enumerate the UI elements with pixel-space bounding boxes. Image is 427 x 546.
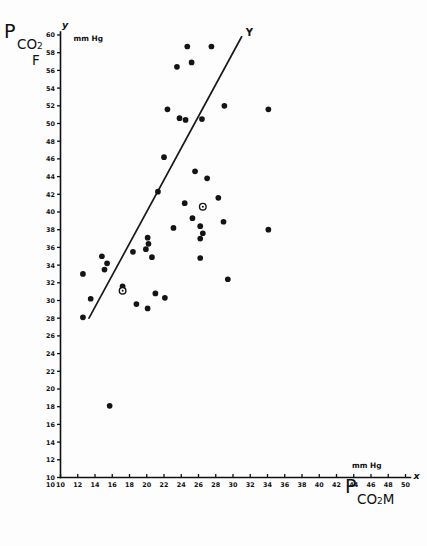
data-point-filled: [266, 106, 272, 112]
x-axis-units: mm Hg: [352, 461, 381, 470]
y-tick-label: 24: [46, 350, 55, 358]
x-tick-label: 26: [194, 481, 203, 489]
data-point-filled: [183, 117, 189, 123]
y-tick-label: 32: [46, 279, 55, 287]
y-title-f: F: [32, 52, 40, 68]
data-point-filled: [162, 295, 168, 301]
origin-tick-label: 10: [46, 481, 55, 489]
data-points: [80, 44, 271, 409]
data-point-filled: [184, 44, 190, 50]
y-tick-label: 40: [46, 208, 55, 216]
data-point-filled: [80, 271, 86, 277]
data-point-filled: [171, 225, 177, 231]
data-point-filled: [145, 235, 151, 241]
data-point-open-center: [202, 206, 204, 208]
x-tick-label: 34: [263, 481, 272, 489]
y-axis-title: P CO2 F: [4, 22, 43, 68]
data-point-filled: [225, 276, 231, 282]
x-tick-label: 16: [108, 481, 117, 489]
data-point-filled: [88, 296, 94, 302]
data-point-filled: [189, 60, 195, 66]
axis-ticks: [57, 35, 406, 478]
y-tick-label: 26: [46, 332, 55, 340]
axis-tick-labels: 1012141618202224262830323436384042444648…: [46, 31, 410, 489]
y-tick-label: 42: [46, 191, 55, 199]
data-point-filled: [102, 267, 108, 273]
data-point-filled: [80, 314, 86, 320]
y-tick-label: 54: [46, 85, 55, 93]
x-tick-label: 12: [73, 481, 82, 489]
data-point-filled: [197, 255, 203, 261]
data-point-filled: [134, 301, 140, 307]
y-tick-label: 34: [46, 262, 55, 270]
data-point-filled: [165, 106, 171, 112]
data-point-filled: [145, 306, 151, 312]
data-point-filled: [155, 189, 161, 195]
data-point-filled: [192, 168, 198, 174]
x-tick-label: 36: [280, 481, 289, 489]
y-tick-label: 12: [46, 456, 55, 464]
y-tick-label: 14: [46, 439, 55, 447]
x-tick-label: 40: [315, 481, 324, 489]
y-tick-label: 20: [46, 385, 55, 393]
x-tick-label: 20: [142, 481, 151, 489]
x-title-co: CO: [357, 491, 377, 507]
data-point-filled: [222, 103, 228, 109]
regression-line: [89, 37, 242, 318]
y-tick-label: 44: [46, 173, 55, 181]
data-point-filled: [190, 215, 196, 221]
data-point-filled: [174, 64, 180, 70]
x-tick-label: 22: [160, 481, 169, 489]
data-point-filled: [143, 246, 149, 252]
y-tick-label: 56: [46, 67, 55, 75]
y-tick-label: 52: [46, 102, 55, 110]
data-point-filled: [107, 403, 113, 409]
x-title-m: M: [383, 491, 395, 507]
y-tick-label: 18: [46, 403, 55, 411]
x-tick-label: 38: [298, 481, 307, 489]
axis-annotations: Yymm Hgxmm Hg: [62, 19, 421, 481]
regression-line-segment: [89, 37, 242, 318]
x-tick-label: 30: [229, 481, 238, 489]
y-tick-label: 48: [46, 138, 55, 146]
x-tick-label: 14: [91, 481, 100, 489]
x-axis-letter: x: [413, 470, 421, 481]
data-point-filled: [153, 291, 159, 297]
plot-canvas: 1012141618202224262830323436384042444648…: [0, 0, 427, 546]
data-point-filled: [200, 230, 206, 236]
data-point-filled: [215, 195, 221, 201]
y-tick-label: 46: [46, 155, 55, 163]
data-point-filled: [182, 200, 188, 206]
x-tick-label: 50: [401, 481, 410, 489]
data-point-filled: [146, 241, 152, 247]
y-tick-label: 38: [46, 226, 55, 234]
data-point-filled: [177, 115, 183, 121]
data-point-filled: [209, 44, 215, 50]
regression-line-label: Y: [245, 27, 254, 38]
y-tick-label: 22: [46, 368, 55, 376]
data-point-filled: [204, 176, 210, 182]
y-title-p: P: [4, 20, 15, 42]
data-point-filled: [99, 253, 105, 259]
x-tick-label: 42: [332, 481, 341, 489]
x-axis-title: P CO2M: [345, 477, 394, 507]
y-tick-label: 28: [46, 315, 55, 323]
data-point-filled: [221, 219, 227, 225]
axes: [61, 32, 411, 478]
data-point-filled: [161, 154, 167, 160]
data-point-filled: [130, 249, 136, 255]
y-tick-label: 50: [46, 120, 55, 128]
data-point-open-center: [122, 290, 124, 292]
data-point-filled: [104, 260, 110, 266]
y-tick-label: 16: [46, 421, 55, 429]
y-tick-label: 58: [46, 49, 55, 57]
y-title-co: CO: [17, 36, 37, 52]
y-tick-label: 30: [46, 297, 55, 305]
scatter-plot-figure: 1012141618202224262830323436384042444648…: [0, 0, 427, 546]
data-point-filled: [149, 254, 155, 260]
x-tick-label: 10: [56, 481, 65, 489]
y-axis-units: mm Hg: [74, 34, 103, 43]
data-point-filled: [199, 116, 205, 122]
x-tick-label: 24: [177, 481, 186, 489]
x-tick-label: 32: [246, 481, 255, 489]
